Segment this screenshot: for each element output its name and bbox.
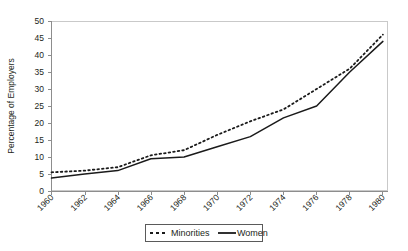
x-tick: 1972 bbox=[234, 191, 255, 213]
y-tick: 50 bbox=[35, 16, 52, 26]
x-tick-label: 1962 bbox=[68, 192, 89, 213]
plot-frame bbox=[52, 22, 388, 191]
y-tick: 25 bbox=[35, 101, 52, 111]
y-axis-ticks: 0 5 10 15 20 25 bbox=[35, 16, 52, 196]
series-line-minorities bbox=[52, 35, 383, 173]
x-tick: 1980 bbox=[366, 191, 387, 213]
y-axis-title: Percentage of Employers bbox=[6, 58, 16, 153]
y-tick-label: 20 bbox=[35, 118, 45, 128]
y-tick: 45 bbox=[35, 33, 52, 43]
x-tick: 1966 bbox=[135, 191, 156, 213]
x-tick: 1968 bbox=[168, 191, 189, 213]
y-tick: 10 bbox=[35, 152, 52, 162]
x-tick-label: 1976 bbox=[300, 192, 321, 213]
y-tick-label: 25 bbox=[35, 101, 45, 111]
x-tick: 1976 bbox=[300, 191, 321, 213]
y-tick: 30 bbox=[35, 84, 52, 94]
line-chart: 0 5 10 15 20 25 bbox=[0, 0, 408, 251]
y-tick-label: 40 bbox=[35, 50, 45, 60]
y-tick-label: 45 bbox=[35, 33, 45, 43]
x-tick-label: 1978 bbox=[333, 192, 354, 213]
y-tick-label: 10 bbox=[35, 152, 45, 162]
y-tick-label: 35 bbox=[35, 67, 45, 77]
x-tick: 1974 bbox=[267, 191, 288, 213]
x-tick-label: 1968 bbox=[168, 192, 189, 213]
x-tick-label: 1964 bbox=[102, 192, 123, 213]
x-tick: 1978 bbox=[333, 191, 354, 213]
x-tick-label: 1960 bbox=[35, 192, 56, 213]
x-tick-label: 1970 bbox=[201, 192, 222, 213]
series-line-women bbox=[52, 41, 383, 178]
y-tick-label: 0 bbox=[39, 186, 44, 196]
x-tick-label: 1972 bbox=[234, 192, 255, 213]
x-tick-label: 1980 bbox=[366, 192, 387, 213]
y-tick-label: 30 bbox=[35, 84, 45, 94]
legend-label-women: Women bbox=[237, 228, 268, 238]
x-tick: 1970 bbox=[201, 191, 222, 213]
y-tick: 20 bbox=[35, 118, 52, 128]
x-tick-label: 1974 bbox=[267, 192, 288, 213]
chart-legend: Minorities Women bbox=[146, 225, 268, 242]
y-tick: 5 bbox=[39, 169, 51, 179]
legend-label-minorities: Minorities bbox=[171, 228, 210, 238]
x-tick: 1964 bbox=[102, 191, 123, 213]
y-tick: 40 bbox=[35, 50, 52, 60]
x-tick: 1962 bbox=[68, 191, 89, 213]
x-tick-label: 1966 bbox=[135, 192, 156, 213]
x-tick: 1960 bbox=[35, 191, 56, 213]
y-tick-label: 50 bbox=[35, 16, 45, 26]
y-tick: 15 bbox=[35, 135, 52, 145]
x-axis-ticks: 1960 1962 1964 1966 1968 1970 bbox=[35, 191, 387, 213]
y-tick-label: 5 bbox=[39, 169, 44, 179]
y-tick-label: 15 bbox=[35, 135, 45, 145]
y-tick: 35 bbox=[35, 67, 52, 77]
chart-container: 0 5 10 15 20 25 bbox=[0, 0, 408, 251]
